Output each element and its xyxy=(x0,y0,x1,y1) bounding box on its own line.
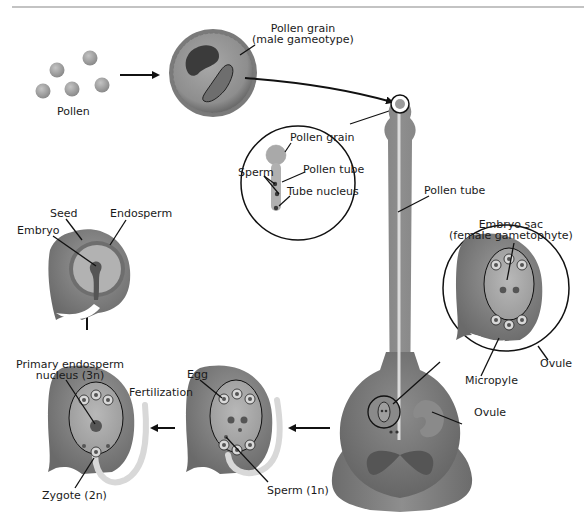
label-embryo-sac: Embryo sac (female gametophyte) xyxy=(449,219,573,241)
ovule-inset xyxy=(443,225,569,351)
label-pollen-grain-line2: (male gameotype) xyxy=(252,34,354,45)
fertilized-ovule-icon xyxy=(48,366,146,483)
ovule-sperm-arrival-icon xyxy=(186,366,280,474)
label-inset-tube-nucleus: Tube nucleus xyxy=(287,186,359,197)
label-embryo-sac-line2: (female gametophyte) xyxy=(449,230,573,241)
label-primary-endosperm-line2: nucleus (3n) xyxy=(16,370,124,381)
pollen-grain-icon xyxy=(169,29,257,117)
label-fertilization: Fertilization xyxy=(129,387,193,398)
label-inset-pollen-grain: Pollen grain xyxy=(290,132,355,143)
label-ovule-pistil: Ovule xyxy=(474,407,506,418)
label-pollen-grain: Pollen grain (male gameotype) xyxy=(252,23,354,45)
arrow-grain-to-stigma xyxy=(245,78,392,102)
label-pollen: Pollen xyxy=(57,106,90,117)
label-seed: Seed xyxy=(50,208,78,219)
diagram-artwork xyxy=(0,0,584,515)
label-inset-pollen-tube: Pollen tube xyxy=(303,164,364,175)
seed-icon xyxy=(48,229,130,320)
label-endosperm: Endosperm xyxy=(110,208,172,219)
label-micropyle: Micropyle xyxy=(465,375,518,386)
label-sperm-1n: Sperm (1n) xyxy=(267,485,329,496)
label-embryo: Embryo xyxy=(17,225,59,236)
label-primary-endosperm: Primary endosperm nucleus (3n) xyxy=(16,359,124,381)
pollen-cluster-icon xyxy=(36,51,110,99)
label-ovule-inset: Ovule xyxy=(540,358,572,369)
fertilization-diagram: Pollen Pollen grain (male gameotype) Pol… xyxy=(0,0,584,515)
label-inset-sperm: Sperm xyxy=(238,167,274,178)
label-pollen-tube: Pollen tube xyxy=(424,185,485,196)
label-zygote: Zygote (2n) xyxy=(42,490,107,501)
label-egg: Egg xyxy=(187,369,208,380)
